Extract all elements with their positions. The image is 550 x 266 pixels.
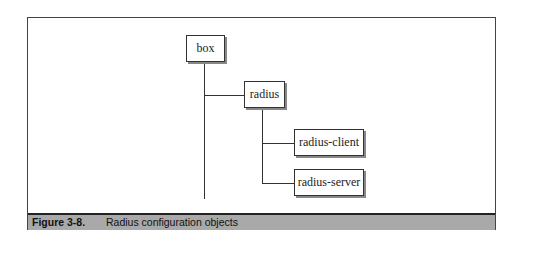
connector-box-trunk	[204, 62, 205, 199]
node-radius-server: radius-server	[294, 169, 364, 196]
figure-frame: box radius radius-client radius-server F…	[27, 17, 496, 230]
connector-radius-server	[262, 183, 294, 184]
diagram-canvas: box radius radius-client radius-server	[28, 18, 495, 213]
figure-caption-text: Radius configuration objects	[106, 216, 238, 228]
node-radius: radius	[244, 81, 285, 108]
connector-radius-client	[262, 143, 294, 144]
connector-radius-trunk	[262, 108, 263, 184]
node-box: box	[186, 35, 225, 62]
node-radius-client-label: radius-client	[299, 135, 359, 150]
connector-box-radius	[204, 95, 244, 96]
figure-caption: Figure 3-8. Radius configuration objects	[28, 213, 495, 230]
figure-number: Figure 3-8.	[32, 216, 85, 228]
node-radius-label: radius	[250, 87, 279, 102]
node-radius-server-label: radius-server	[298, 175, 361, 190]
node-box-label: box	[197, 41, 215, 56]
node-radius-client: radius-client	[294, 129, 364, 156]
